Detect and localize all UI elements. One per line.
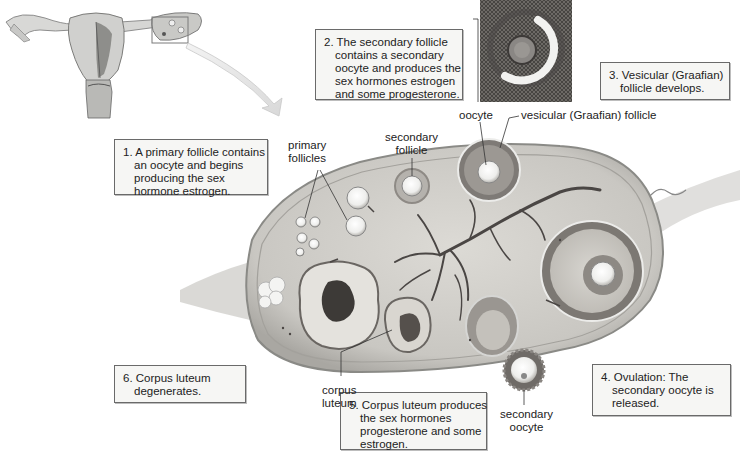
step-6-box: 6. Corpus luteum degenerates. — [114, 365, 246, 403]
micrograph — [480, 0, 572, 102]
mature-vesicular-follicle — [541, 221, 643, 321]
ruptured-follicle — [466, 296, 518, 356]
ovarian-cycle-diagram: 1. A primary follicle contains an oocyte… — [0, 0, 741, 456]
corpus-luteum — [385, 298, 431, 352]
step-6-line-2: degenerates. — [123, 385, 237, 398]
step-2-line-1: 2. The secondary follicle — [324, 36, 454, 49]
step-5-line-3: progesterone and some — [349, 425, 478, 438]
step-2-box: 2. The secondary follicle contains a sec… — [315, 29, 463, 100]
vesicular-follicle-top — [458, 139, 520, 201]
step-2-line-3: oocyte and produces the — [324, 62, 454, 75]
label-primary-follicles: primary follicles — [288, 139, 326, 165]
label-secondary-oocyte: secondary oocyte — [500, 408, 553, 434]
step-1-line-1: 1. A primary follicle contains — [123, 146, 259, 159]
step-1-box: 1. A primary follicle contains an oocyte… — [114, 139, 268, 195]
step-3-box: 3. Vesicular (Graafian) follicle develop… — [600, 62, 730, 100]
step-3-line-2: follicle develops. — [609, 82, 721, 95]
step-3-line-1: 3. Vesicular (Graafian) — [609, 69, 721, 82]
step-2-line-5: and some progesterone. — [324, 88, 454, 101]
step-1-line-3: producing the sex — [123, 172, 259, 185]
step-2-line-4: sex hormones estrogen — [324, 75, 454, 88]
zoom-arrow — [186, 43, 282, 116]
step-4-line-3: released. — [601, 397, 722, 410]
label-vesicular-follicle: vesicular (Graafian) follicle — [521, 109, 657, 122]
step-5-line-1: 5. Corpus luteum produces — [349, 399, 478, 412]
step-4-line-1: 4. Ovulation: The — [601, 371, 722, 384]
ligament-left — [180, 262, 250, 320]
label-secondary-follicle: secondary follicle — [385, 131, 438, 157]
label-corpus-luteum: corpus luteum — [322, 384, 357, 410]
label-oocyte: oocyte — [459, 109, 493, 122]
step-1-line-4: hormone estrogen. — [123, 185, 259, 198]
step-5-box: 5. Corpus luteum produces the sex hormon… — [340, 392, 487, 450]
step-1-line-2: an oocyte and begins — [123, 159, 259, 172]
step-5-line-4: estrogen. — [349, 438, 478, 451]
uterus-inset — [6, 13, 202, 118]
degenerating-corpus-luteum — [299, 261, 378, 348]
step-4-box: 4. Ovulation: The secondary oocyte is re… — [592, 364, 731, 416]
ovary — [246, 139, 663, 372]
step-2-line-2: contains a secondary — [324, 49, 454, 62]
step-5-line-2: the sex hormones — [349, 412, 478, 425]
step-4-line-2: secondary oocyte is — [601, 384, 722, 397]
released-secondary-oocyte — [504, 350, 544, 390]
step-6-line-1: 6. Corpus luteum — [123, 372, 237, 385]
